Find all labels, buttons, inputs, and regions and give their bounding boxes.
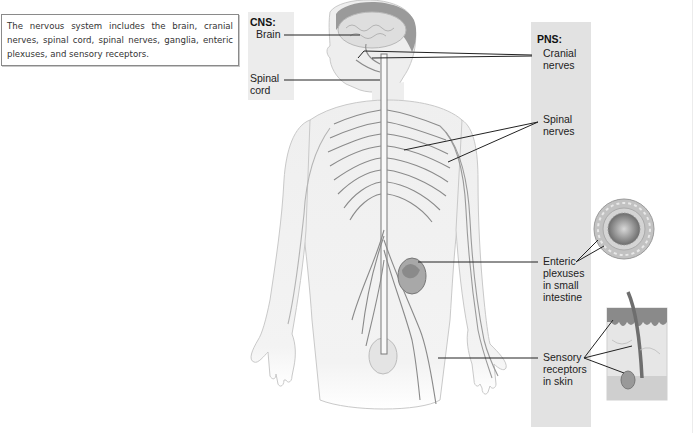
cns-heading: CNS:	[250, 17, 276, 29]
small-intestine-drawing	[398, 258, 426, 294]
intestine-cross-section-image	[594, 199, 654, 259]
label-sensory-line2: receptors	[543, 364, 587, 376]
label-spinal-cord-line2: cord	[250, 85, 270, 97]
label-enteric-line1: Enteric	[543, 256, 576, 268]
label-spinal-nerves-line1: Spinal	[543, 114, 572, 126]
label-enteric-line2: plexuses	[543, 268, 584, 280]
label-sensory-line3: in skin	[543, 376, 573, 388]
label-enteric-line4: intestine	[543, 292, 582, 304]
human-body-figure	[251, 0, 506, 409]
pns-heading: PNS:	[537, 34, 562, 46]
label-spinal-nerves-line2: nerves	[543, 126, 575, 138]
label-sensory-line1: Sensory	[543, 352, 582, 364]
label-enteric-line3: in small	[543, 280, 579, 292]
nervous-system-illustration	[0, 0, 694, 433]
label-cranial-nerves-line1: Cranial	[543, 48, 576, 60]
label-cranial-nerves-line2: nerves	[543, 60, 575, 72]
spinal-cord-drawing	[381, 54, 387, 354]
skin-section-image	[607, 292, 667, 400]
label-brain: Brain	[256, 29, 281, 41]
label-spinal-cord-line1: Spinal	[250, 73, 279, 85]
